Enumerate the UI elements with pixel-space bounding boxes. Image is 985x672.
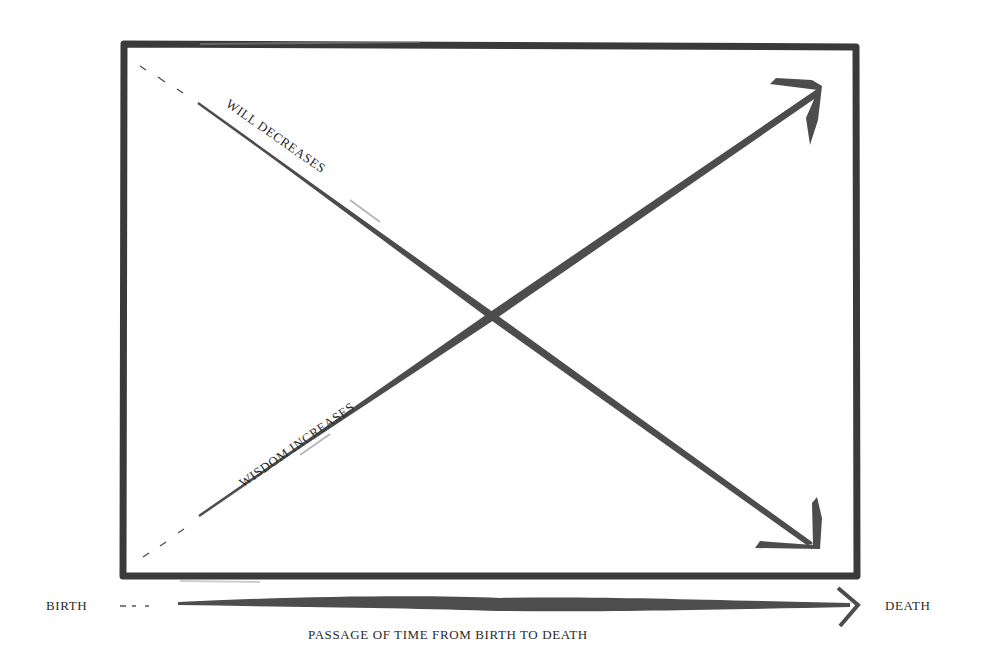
death-label: DEATH [885, 598, 931, 614]
down-arrow-head-icon [755, 497, 822, 549]
birth-label: BIRTH [46, 598, 87, 614]
will-wisdom-diagram [0, 0, 985, 672]
time-axis-arrow [120, 588, 858, 626]
x-axis-caption: PASSAGE OF TIME FROM BIRTH TO DEATH [308, 627, 588, 643]
